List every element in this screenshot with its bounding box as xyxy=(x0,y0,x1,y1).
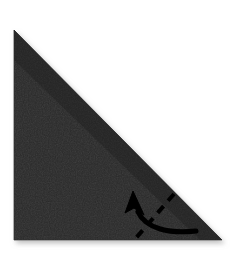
origami-canvas xyxy=(0,0,236,261)
origami-figure: Origami fold step: triangle with upward … xyxy=(0,0,236,261)
